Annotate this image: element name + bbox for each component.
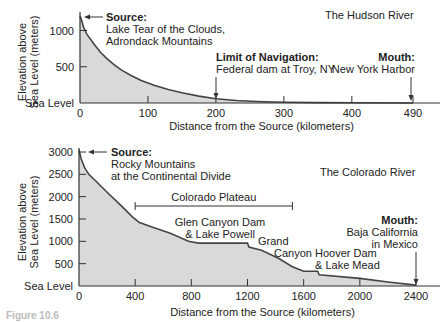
y-tick-label: 2000 — [49, 191, 73, 203]
navigation-limit-title: Limit of Navigation: — [216, 51, 319, 63]
x-tick-label: 800 — [182, 290, 200, 302]
region-label: Colorado Plateau — [171, 191, 256, 203]
source-annotation-line: at the Continental Divide — [111, 170, 231, 182]
y-tick-label: 3000 — [49, 146, 73, 158]
x-tick-label: 0 — [76, 290, 82, 302]
x-tick-label: 400 — [343, 107, 361, 119]
arrowhead — [414, 279, 419, 285]
y-tick-label: 1500 — [49, 213, 73, 225]
x-tick-label: 1600 — [291, 290, 315, 302]
source-annotation-line: Rocky Mountains — [111, 158, 196, 170]
x-tick-label: 100 — [139, 107, 157, 119]
x-tick-label: 490 — [404, 107, 422, 119]
y-tick-label: 1000 — [50, 25, 74, 37]
source-annotation-title: Source: — [111, 146, 152, 158]
chart-title: The Colorado River — [320, 166, 416, 178]
x-tick-label: 300 — [275, 107, 293, 119]
x-tick-label: 200 — [207, 107, 225, 119]
x-tick-label: 2400 — [404, 290, 428, 302]
chart-title: The Hudson River — [325, 9, 414, 21]
hoover-dam-label: Hoover Dam — [315, 247, 377, 259]
grand-canyon-label: Canyon — [274, 247, 312, 259]
source-annotation-title: Source: — [106, 11, 147, 23]
x-tick-label: 1200 — [235, 290, 259, 302]
hoover-dam-label: & Lake Mead — [315, 259, 380, 271]
x-axis-label: Distance from the Source (kilometers) — [169, 120, 354, 132]
glen-canyon-label: & Lake Powell — [185, 228, 255, 240]
y-tick-label: 500 — [55, 258, 73, 270]
x-tick-label: 400 — [126, 290, 144, 302]
river-profile-diagram: 0100200300400490Sea Level5001000Elevatio… — [0, 0, 447, 323]
mouth-annotation-line: Baja California — [346, 226, 418, 238]
x-tick-label: 0 — [77, 107, 83, 119]
mouth-annotation-title: Mouth: — [381, 214, 418, 226]
x-axis-label: Distance from the Source (kilometers) — [170, 306, 355, 318]
y-axis-label: Elevation aboveSea Level (meters) — [16, 16, 40, 109]
mouth-annotation-line: in Mexico — [372, 238, 418, 250]
figure-caption: Figure 10.6 — [6, 310, 59, 321]
source-annotation-line: Lake Tear of the Clouds, — [106, 23, 225, 35]
arrowhead — [88, 150, 94, 155]
y-tick-label: 1000 — [49, 235, 73, 247]
y-tick-label: 500 — [56, 61, 74, 73]
glen-canyon-label: Glen Canyon Dam — [175, 216, 266, 228]
mouth-annotation-title: Mouth: — [378, 51, 415, 63]
y-tick-label: 2500 — [49, 168, 73, 180]
x-tick-label: 2000 — [348, 290, 372, 302]
source-annotation-line: Adrondack Mountains — [106, 35, 213, 47]
river-profiles-figure: 0100200300400490Sea Level5001000Elevatio… — [0, 0, 447, 323]
grand-canyon-label: Grand — [258, 235, 289, 247]
y-axis-label: Elevation aboveSea Level (meters) — [16, 176, 40, 269]
arrowhead — [84, 15, 90, 20]
mouth-annotation-line: New York Harbor — [332, 63, 415, 75]
navigation-limit-line: Federal dam at Troy, NY — [216, 63, 336, 75]
y-tick-label: Sea Level — [24, 280, 73, 292]
